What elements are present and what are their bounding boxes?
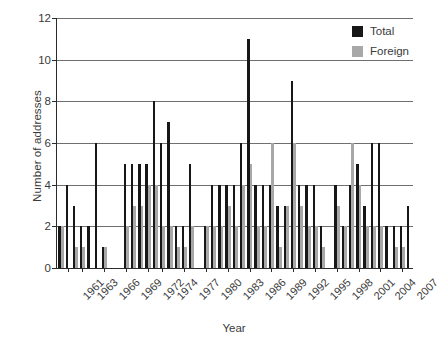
bar-foreign	[322, 247, 325, 268]
x-tick-mark	[104, 268, 105, 272]
bar-foreign	[249, 164, 252, 268]
y-tick-label: 0	[45, 262, 51, 274]
bar-total	[95, 143, 97, 268]
bar-foreign	[257, 226, 260, 268]
bar-foreign	[271, 143, 274, 268]
y-tick-label: 8	[45, 95, 51, 107]
bar-foreign	[213, 226, 216, 268]
bar-group	[58, 18, 65, 268]
bar-foreign	[133, 206, 136, 269]
x-tick-label: 2001	[371, 276, 397, 302]
bar-total	[145, 164, 147, 268]
x-tick-mark	[206, 268, 207, 272]
bar-total	[407, 206, 409, 269]
bar-group	[225, 18, 232, 268]
bar-group	[211, 18, 218, 268]
x-tick-label: 1992	[305, 276, 331, 302]
bar-group	[153, 18, 160, 268]
bar-group	[131, 18, 138, 268]
bar-group	[167, 18, 174, 268]
bar-group	[298, 18, 305, 268]
bar-total	[298, 185, 300, 268]
bar-group	[334, 18, 341, 268]
bar-group	[291, 18, 298, 268]
bar-foreign	[126, 226, 129, 268]
bar-foreign	[351, 143, 354, 268]
bar-total	[204, 226, 206, 268]
bar-foreign	[177, 247, 180, 268]
bar-foreign	[395, 247, 398, 268]
bar-foreign	[380, 226, 383, 268]
x-tick-label: 1998	[349, 276, 375, 302]
x-tick-mark	[68, 268, 69, 272]
bar-total	[378, 143, 380, 268]
bar-foreign	[402, 247, 405, 268]
bar-group	[276, 18, 283, 268]
bar-group	[218, 18, 225, 268]
bar-total	[175, 226, 177, 268]
bar-group	[320, 18, 327, 268]
bar-group	[254, 18, 261, 268]
bar-foreign	[155, 185, 158, 268]
bar-foreign	[293, 143, 296, 268]
bar-foreign	[104, 247, 107, 268]
bar-total	[87, 226, 89, 268]
bar-foreign	[191, 226, 194, 268]
bar-total	[225, 185, 227, 268]
bar-total	[356, 164, 358, 268]
bar-foreign	[315, 226, 318, 268]
bar-total	[211, 185, 213, 268]
bar-foreign	[184, 247, 187, 268]
bar-group	[284, 18, 291, 268]
x-tick-label: 1969	[138, 276, 164, 302]
bar-total	[240, 143, 242, 268]
bar-total	[102, 247, 104, 268]
bar-total	[400, 226, 402, 268]
legend-item-total: Total	[352, 21, 440, 41]
bar-total	[342, 226, 344, 268]
bar-foreign	[242, 185, 245, 268]
bar-total	[138, 164, 140, 268]
x-tick-mark	[162, 268, 163, 272]
bar-group	[262, 18, 269, 268]
x-tick-label: 2004	[392, 276, 418, 302]
bar-foreign	[344, 226, 347, 268]
y-tick-label: 6	[45, 137, 51, 149]
legend-swatch-foreign-icon	[352, 46, 363, 57]
bar-total	[262, 185, 264, 268]
bar-total	[66, 185, 68, 268]
bar-total	[73, 206, 75, 269]
bar-foreign	[220, 226, 223, 268]
bar-group	[124, 18, 131, 268]
x-tick-mark	[82, 268, 83, 272]
bar-total	[189, 164, 191, 268]
y-tick-mark	[52, 268, 57, 269]
bar-group	[305, 18, 312, 268]
bar-group	[87, 18, 94, 268]
legend-item-foreign: Foreign	[352, 41, 440, 61]
x-tick-mark	[228, 268, 229, 272]
bar-total	[160, 143, 162, 268]
bar-total	[363, 206, 365, 269]
bar-group	[247, 18, 254, 268]
bar-foreign	[366, 226, 369, 268]
bar-total	[247, 39, 249, 268]
bar-group	[80, 18, 87, 268]
bar-foreign	[148, 185, 151, 268]
legend-label-foreign: Foreign	[370, 45, 409, 57]
bar-foreign	[206, 226, 209, 268]
x-tick-mark	[271, 268, 272, 272]
bar-total	[167, 122, 169, 268]
bar-foreign	[235, 226, 238, 268]
bar-foreign	[60, 226, 63, 268]
chart-legend: Total Foreign	[352, 21, 440, 61]
bar-total	[385, 226, 387, 268]
bar-group	[233, 18, 240, 268]
bar-total	[269, 185, 271, 268]
x-tick-mark	[315, 268, 316, 272]
bar-group	[327, 18, 334, 268]
bar-group	[160, 18, 167, 268]
bar-foreign	[337, 206, 340, 269]
x-tick-label: 1983	[240, 276, 266, 302]
legend-label-total: Total	[370, 25, 394, 37]
